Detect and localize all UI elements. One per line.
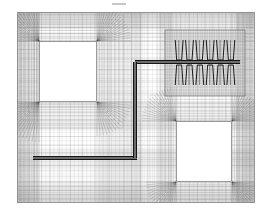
mesh-figure (0, 0, 272, 215)
mesh-render-canvas (0, 0, 272, 215)
